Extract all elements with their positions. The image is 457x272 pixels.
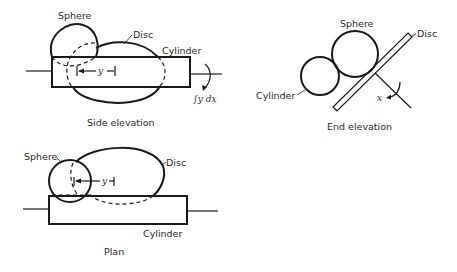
y-arrowhead	[75, 179, 81, 184]
disc-label: Disc	[417, 28, 437, 39]
mechanism-diagram: y ∫y dx Sphere Disc Cylinder Side elevat…	[0, 0, 457, 272]
disc-label: Disc	[133, 29, 153, 40]
disc-label: Disc	[166, 157, 186, 168]
side-elevation-view: y ∫y dx Sphere Disc Cylinder Side elevat…	[26, 10, 222, 128]
side-elevation-caption: Side elevation	[87, 117, 155, 128]
cylinder-body	[52, 57, 190, 87]
cylinder-circle	[301, 57, 339, 95]
y-label: y	[97, 66, 104, 76]
end-elevation-caption: End elevation	[327, 121, 392, 132]
x-label: x	[377, 93, 382, 103]
disc-edge	[333, 33, 412, 111]
sphere-label: Sphere	[24, 151, 58, 162]
sphere-label: Sphere	[340, 18, 374, 29]
sphere-label: Sphere	[58, 10, 92, 21]
x-arrowhead	[386, 95, 391, 100]
plan-view: y Sphere Disc Cylinder Plan	[23, 148, 218, 257]
end-elevation-view: x Sphere Disc Cylinder End elevation	[256, 18, 437, 132]
cylinder-label: Cylinder	[162, 45, 201, 56]
y-arrowhead	[78, 69, 84, 74]
disc-hidden-edge	[158, 57, 165, 86]
cylinder-body	[49, 196, 187, 224]
disc-leader	[412, 34, 416, 36]
disc-outline-top	[96, 42, 158, 57]
disc-outline-bottom	[73, 86, 160, 103]
sphere-hidden-edge	[52, 57, 96, 66]
cylinder-label: Cylinder	[256, 90, 295, 101]
cylinder-leader	[297, 90, 305, 95]
cylinder-label: Cylinder	[143, 228, 182, 239]
disc-hidden-left	[67, 43, 95, 87]
rotation-arrow	[205, 64, 210, 88]
y-label: y	[101, 176, 108, 186]
integral-label: ∫y dx	[193, 94, 216, 104]
plan-caption: Plan	[104, 246, 124, 257]
